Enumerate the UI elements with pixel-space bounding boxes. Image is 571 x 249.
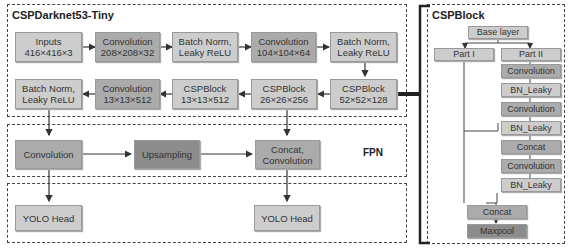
part2-bn-leaky-1: BN_Leaky (501, 83, 561, 97)
part2-convolution-2: Convolution (501, 102, 561, 116)
yolo-head-box-2: YOLO Head (254, 205, 320, 231)
part2-bn-leaky-3: BN_Leaky (501, 178, 561, 192)
convolution-208-box: Convolution208×208×32 (95, 32, 160, 62)
fpn-convolution-box: Convolution (15, 140, 82, 169)
part2-convolution-3: Convolution (501, 159, 561, 173)
convolution-104-box: Convolution104×104×64 (251, 32, 316, 62)
upsampling-box: Upsampling (134, 140, 200, 169)
maxpool-box: Maxpool (467, 224, 527, 238)
yolo-head-box-1: YOLO Head (15, 205, 82, 231)
part1-box: Part I (434, 48, 494, 61)
final-concat-box: Concat (467, 205, 527, 219)
cspblock-13-box: CSPBlock13×13×512 (172, 79, 238, 109)
part2-bn-leaky-2: BN_Leaky (501, 121, 561, 135)
cspblock-52-box: CSPBlock52×52×128 (330, 79, 397, 109)
base-layer-box: Base layer (468, 26, 528, 39)
batchnorm-leaky-box-2: Batch Norm,Leaky ReLU (330, 32, 397, 62)
batchnorm-leaky-box-3: Batch Norm,Leaky ReLU (15, 79, 82, 109)
concat-convolution-box: Concat,Convolution (255, 140, 320, 169)
inputs-box: Inputs416×416×3 (15, 32, 82, 62)
part2-box: Part II (501, 48, 561, 61)
batchnorm-leaky-box-1: Batch Norm,Leaky ReLU (172, 32, 238, 62)
convolution-13-box: Convolution13×13×512 (95, 79, 160, 109)
cspblock-26-box: CSPBlock26×26×256 (251, 79, 317, 109)
part2-concat: Concat (501, 140, 561, 154)
part2-convolution-1: Convolution (501, 64, 561, 78)
